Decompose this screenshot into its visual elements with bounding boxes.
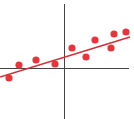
scatter-chart xyxy=(0,0,134,119)
data-points xyxy=(5,28,129,81)
data-point xyxy=(122,28,129,35)
data-point xyxy=(68,44,75,51)
data-point xyxy=(51,60,58,67)
data-point xyxy=(110,30,117,37)
data-point xyxy=(5,74,12,81)
data-point xyxy=(32,56,39,63)
data-point xyxy=(15,61,22,68)
data-point xyxy=(91,36,98,43)
data-point xyxy=(82,53,89,60)
data-point xyxy=(107,44,114,51)
